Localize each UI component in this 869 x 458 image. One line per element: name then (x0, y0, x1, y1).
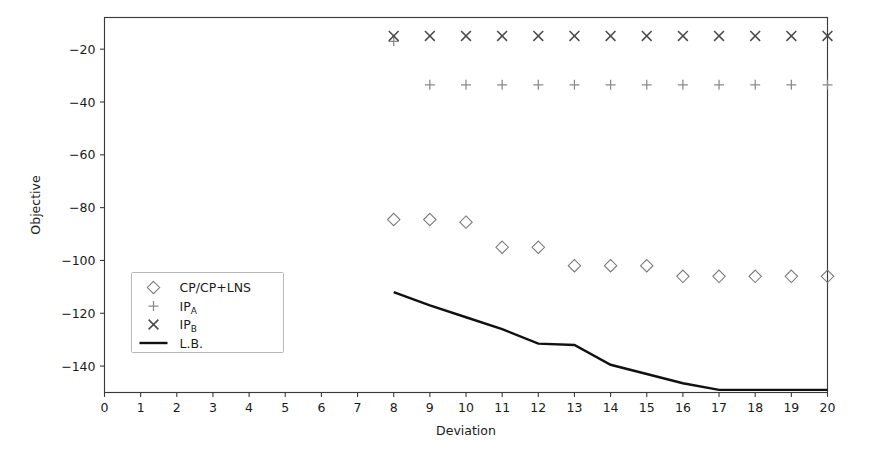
objective-vs-deviation-chart: 01234567891011121314151617181920 −20−40−… (0, 0, 869, 458)
figure-container: 01234567891011121314151617181920 −20−40−… (0, 0, 869, 458)
x-tick-label: 0 (101, 400, 109, 415)
y-tick-label: −20 (69, 42, 95, 57)
x-tick-label: 15 (639, 400, 655, 415)
y-tick-label: −100 (61, 253, 95, 268)
x-tick-label: 14 (603, 400, 619, 415)
y-axis-label: Objective (28, 175, 43, 235)
legend-label: L.B. (180, 336, 204, 351)
x-tick-label: 16 (675, 400, 691, 415)
x-tick-label: 19 (783, 400, 799, 415)
legend-label-subscript: A (191, 306, 198, 316)
x-tick-label: 7 (354, 400, 362, 415)
x-tick-label: 5 (281, 400, 289, 415)
x-tick-label: 18 (747, 400, 763, 415)
y-tick-label: −40 (69, 95, 95, 110)
chart-legend: CP/CP+LNSIPAIPBL.B. (132, 273, 284, 353)
x-axis-label: Deviation (436, 423, 496, 438)
x-tick-label: 3 (209, 400, 217, 415)
x-tick-label: 12 (530, 400, 546, 415)
x-tick-label: 4 (245, 400, 253, 415)
x-tick-label: 11 (494, 400, 510, 415)
x-tick-label: 6 (317, 400, 325, 415)
x-tick-label: 8 (390, 400, 398, 415)
y-tick-label: −60 (69, 147, 95, 162)
y-tick-label: −120 (61, 306, 95, 321)
legend-label-subscript: B (191, 324, 197, 334)
x-tick-label: 1 (137, 400, 145, 415)
legend-label: CP/CP+LNS (180, 280, 252, 295)
x-tick-label: 2 (173, 400, 181, 415)
x-tick-label: 10 (458, 400, 474, 415)
x-tick-label: 9 (426, 400, 434, 415)
y-tick-label: −140 (61, 359, 95, 374)
y-tick-label: −80 (69, 200, 95, 215)
x-tick-label: 20 (820, 400, 836, 415)
x-tick-label: 17 (711, 400, 727, 415)
x-tick-label: 13 (566, 400, 582, 415)
